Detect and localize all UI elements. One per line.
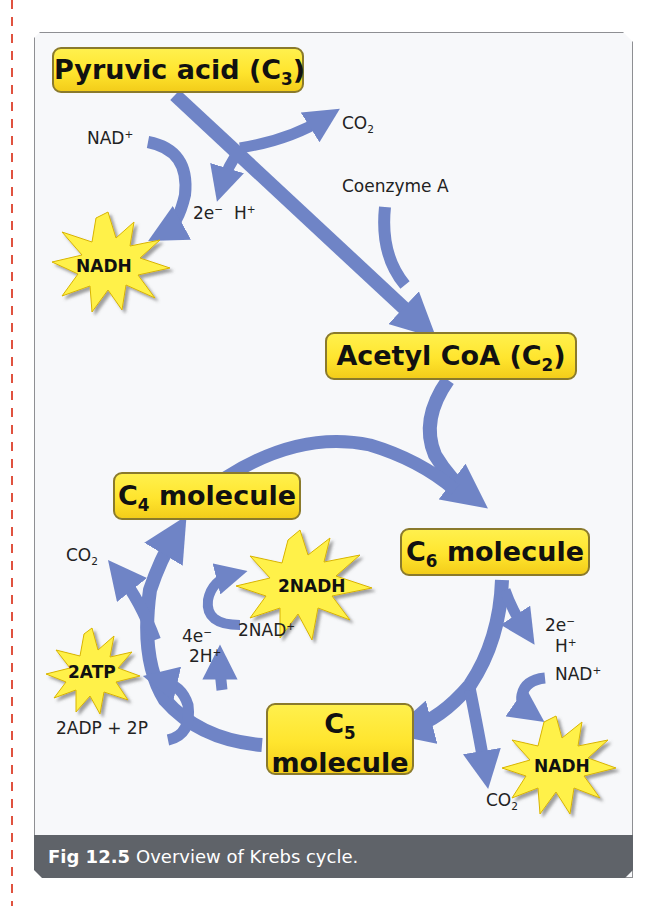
c4-subscript: 4 — [138, 495, 150, 515]
arrow-4e-2h — [220, 662, 222, 690]
pyruvic-close: ) — [293, 54, 305, 85]
arrow-nad-to-nadh — [148, 142, 186, 232]
subscript-two: 2 — [511, 800, 518, 812]
arrow-nad-to-nadh-right — [522, 678, 545, 712]
electrons-h-top-label: 2e− H+ — [193, 203, 256, 223]
c5-carbon: C — [324, 708, 344, 739]
c6-label: molecule — [438, 536, 584, 567]
plus-sign: + — [124, 128, 133, 140]
2h-plus-label: 2H+ — [189, 646, 221, 666]
nad-text: NAD — [555, 664, 592, 684]
arrow-co2-c6 — [470, 690, 485, 770]
c4-molecule-box: C4 molecule — [113, 472, 301, 520]
plus-sign: + — [213, 646, 222, 658]
c5-carbon-line: C5 — [268, 709, 412, 748]
arrow-electrons — [222, 150, 240, 185]
pyruvic-label: Pyruvic acid (C — [54, 54, 281, 85]
subscript-two: 2 — [367, 123, 374, 135]
c5-molecule-box: C5 molecule — [266, 703, 414, 775]
figure-caption: Fig 12.5Overview of Krebs cycle. — [34, 835, 633, 878]
c5-label: molecule — [268, 748, 412, 778]
co-text: CO — [66, 545, 91, 565]
nad-plus-right-label: NAD+ — [555, 664, 601, 684]
subscript-two: 2 — [91, 555, 98, 567]
caption-text: Overview of Krebs cycle. — [136, 846, 358, 867]
electrons-text: 2e — [193, 203, 214, 223]
co2-top-label: CO2 — [342, 113, 374, 135]
co2-bottom-label: CO2 — [486, 790, 518, 812]
arrow-2nad-to-2nadh — [208, 575, 240, 625]
pyruvic-subscript: 3 — [281, 69, 293, 89]
co-text: CO — [486, 790, 511, 810]
c5-subscript: 5 — [344, 723, 356, 743]
minus-sign: − — [566, 615, 575, 627]
2nad-plus-label: 2NAD+ — [238, 620, 295, 640]
c6-subscript: 6 — [426, 551, 438, 571]
minus-sign: − — [203, 626, 212, 638]
arrow-c6-electrons — [505, 590, 525, 630]
co-text: CO — [342, 113, 367, 133]
pyruvic-acid-box: Pyruvic acid (C3) — [52, 47, 304, 93]
c4-label: molecule — [150, 480, 296, 511]
caption-number: Fig 12.5 — [48, 846, 130, 867]
electrons-right-label: 2e− — [545, 615, 575, 635]
plus-sign: + — [286, 620, 295, 632]
h-text: H — [234, 203, 247, 223]
nadh-bottom-label: NADH — [534, 756, 590, 776]
c6-carbon: C — [406, 536, 426, 567]
adp-label: 2ADP + 2P — [56, 718, 148, 738]
nadh-top-label: NADH — [76, 256, 132, 276]
2nadh-label: 2NADH — [278, 576, 346, 596]
c6-molecule-box: C6 molecule — [400, 528, 590, 576]
electrons-text: 4e — [182, 626, 203, 646]
co2-left-label: CO2 — [66, 545, 98, 567]
coenzyme-a-label: Coenzyme A — [342, 176, 449, 196]
arrow-co2-release — [240, 118, 325, 148]
minus-sign: − — [214, 203, 223, 215]
plus-sign: + — [568, 636, 577, 648]
acetyl-label: Acetyl CoA (C — [336, 340, 541, 371]
acetyl-subscript: 2 — [542, 355, 554, 375]
plus-sign: + — [247, 203, 256, 215]
arrow-coenzyme-a — [384, 207, 405, 285]
arrow-c6-to-c5 — [410, 580, 502, 728]
plus-sign: + — [592, 664, 601, 676]
nad-text: NAD — [87, 128, 124, 148]
electrons-text: 2e — [545, 615, 566, 635]
2atp-label: 2ATP — [68, 662, 116, 682]
nad-plus-top-label: NAD+ — [87, 128, 133, 148]
acetyl-close: ) — [553, 340, 565, 371]
c4-carbon: C — [118, 480, 138, 511]
h-text: 2H — [189, 646, 213, 666]
4e-label: 4e− — [182, 626, 212, 646]
h-plus-right-label: H+ — [555, 636, 577, 656]
h-text: H — [555, 636, 568, 656]
acetyl-coa-box: Acetyl CoA (C2) — [325, 332, 577, 380]
nad-text: 2NAD — [238, 620, 286, 640]
